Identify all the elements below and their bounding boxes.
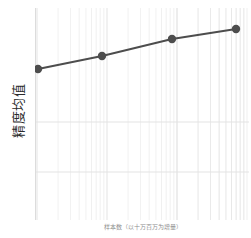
data-point (98, 52, 106, 60)
y-axis-label-container: 精度均值 (0, 0, 34, 220)
chart-svg (35, 8, 249, 220)
x-axis-label-container: 样本数（以十万百万为增量） (34, 222, 251, 238)
vertical-gridlines (37, 8, 247, 220)
data-markers (35, 25, 240, 73)
data-point (35, 65, 42, 73)
chart-figure: 精度均值 样本数（以十万百万为增量） (0, 0, 251, 238)
y-axis-label: 精度均值 (8, 83, 27, 137)
data-line (38, 29, 236, 69)
data-point (168, 35, 176, 43)
horizontal-gridlines (35, 122, 249, 172)
x-axis-label: 样本数（以十万百万为增量） (104, 222, 182, 230)
plot-area (35, 8, 249, 220)
data-point (232, 25, 240, 33)
